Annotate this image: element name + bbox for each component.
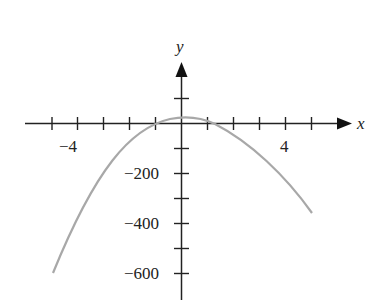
y-axis-label: y <box>174 37 184 56</box>
x-axis-label: x <box>356 114 365 133</box>
y-axis-arrow-icon <box>176 62 188 77</box>
y-tick-label-neg600: −600 <box>124 264 159 283</box>
y-tick-label-neg200: −200 <box>124 164 159 183</box>
x-tick-label-neg4: −4 <box>59 137 78 156</box>
y-tick-label-neg400: −400 <box>124 214 159 233</box>
x-tick-label-4: 4 <box>280 137 289 156</box>
chart: y x −4 4 −200 −400 −600 <box>0 0 391 306</box>
data-curve <box>53 117 312 273</box>
x-axis-arrow-icon <box>337 118 352 130</box>
